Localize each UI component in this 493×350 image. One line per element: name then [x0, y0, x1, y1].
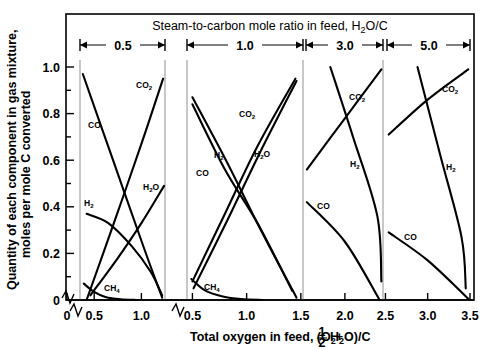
- x-tick-label-p0-1: 1.0: [133, 309, 150, 323]
- series-label-p4-co: CO: [404, 232, 417, 242]
- series-label-p1-co2: CO2: [136, 80, 153, 91]
- curve-panel3-co2: [307, 69, 382, 169]
- panel-range-4: 5.0: [387, 36, 470, 54]
- x-tick-label-origin: 0: [64, 309, 71, 323]
- curve-panel2-ch4: [191, 279, 263, 300]
- y-tick-label-3: 0.8: [43, 107, 60, 121]
- curve-panel4-co: [389, 232, 469, 298]
- x-title-frac-denominator: 2: [319, 336, 326, 350]
- y-axis-title: Quantity of each component in gas mixtur…: [5, 30, 33, 290]
- panel-ratio-label-2: 1.0: [236, 39, 253, 53]
- curve-panel1-h2: [87, 214, 163, 296]
- figure-root: Steam-to-carbon mole ratio in feed, H2O/…: [0, 0, 493, 350]
- panel-ratio-label-3: 3.0: [336, 39, 353, 53]
- series-label-p1-co: CO: [88, 120, 101, 130]
- series-label-p1-ch4: CH4: [104, 283, 120, 294]
- y-axis-title-line1: Quantity of each component in gas mixtur…: [5, 30, 19, 290]
- x-axis-title: Total oxygen in feed, (O2+ 1 2 H2O)/C: [190, 325, 370, 350]
- chart-top-title: Steam-to-carbon mole ratio in feed, H2O/…: [152, 19, 388, 35]
- curve-panel4-co2: [389, 69, 469, 134]
- series-label-p3-h2: H2: [350, 159, 360, 170]
- panel-range-3: 3.0: [306, 36, 383, 54]
- y-tick-label-1: 0.4: [43, 200, 60, 214]
- series-label-p2-co: CO: [196, 168, 209, 178]
- panel-range-1: 0.5: [80, 36, 165, 54]
- y-tick-label-0: 0.2: [43, 247, 60, 261]
- y-axis-ticks: 0.20.40.60.81.0: [43, 61, 74, 277]
- svg-text:H2O)/C: H2O)/C: [330, 330, 370, 346]
- x-tick-label-p1-0: 0.5: [184, 309, 201, 323]
- y-tick-label-4: 1.0: [43, 61, 60, 75]
- panel-range-2: 1.0: [187, 36, 303, 54]
- panel-ratio-label-4: 5.0: [420, 39, 437, 53]
- x-axis-break-symbol-mid: [172, 304, 184, 316]
- y-origin-label: 0: [53, 294, 60, 308]
- curve-panel2-h2: [192, 97, 296, 297]
- x-axis-ticks: 0.51.00.51.01.52.02.53.03.50: [64, 293, 479, 323]
- x-tick-label-p3-1: 3.5: [461, 309, 478, 323]
- series-label-p2-ch4: CH4: [204, 282, 220, 293]
- curve-panel4-h2: [417, 67, 465, 288]
- series-label-p2-co2: CO2: [239, 109, 256, 120]
- series-label-p1-h2o: H2O: [143, 182, 160, 193]
- y-axis-break-symbol: [62, 291, 74, 303]
- x-axis-break-symbol-left: [70, 304, 82, 316]
- x-tick-label-p0-0: 0.5: [85, 309, 102, 323]
- x-tick-label-p1-2: 1.5: [292, 309, 309, 323]
- series-curves: [83, 67, 468, 300]
- x-tick-label-p3-0: 3.0: [419, 309, 436, 323]
- series-label-p1-h2: H2: [84, 198, 94, 209]
- y-axis-title-line2: moles per mole C converted: [19, 91, 33, 258]
- x-tick-label-p1-1: 1.0: [238, 309, 255, 323]
- x-tick-label-p2-1: 2.5: [377, 309, 394, 323]
- steam-to-carbon-chart: Steam-to-carbon mole ratio in feed, H2O/…: [0, 0, 493, 350]
- panel-range-indicators: 0.5 1.0 3.0: [80, 36, 470, 54]
- curve-panel3-co: [307, 202, 379, 299]
- x-tick-label-p2-0: 2.0: [336, 309, 353, 323]
- series-label-p2-h2o: H2O: [254, 149, 271, 160]
- y-tick-label-2: 0.6: [43, 154, 60, 168]
- series-label-p4-co2: CO2: [442, 84, 459, 95]
- series-inline-labels: CO CO2 H2O H2 CH4 CO H2 CO2 H2O CH4 CO2 …: [84, 80, 459, 294]
- panel-ratio-label-1: 0.5: [114, 39, 131, 53]
- series-label-p3-co: CO: [317, 201, 330, 211]
- series-label-p4-h2: H2: [446, 162, 456, 173]
